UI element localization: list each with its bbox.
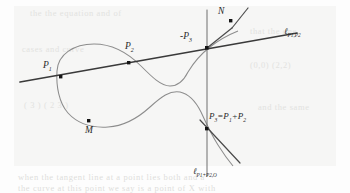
label-point-n: N <box>218 6 224 16</box>
label-point-p1: P1 <box>43 60 52 72</box>
label-p3-equals-p1-plus-p2: P3=P1+P2 <box>209 111 246 123</box>
label-vertical-line: ℓP1+P2,O <box>193 166 217 178</box>
figure-root: the the equation and of that the one cas… <box>0 0 350 193</box>
point-marker-P1 <box>59 75 62 78</box>
point-marker-minus-P3 <box>205 46 209 50</box>
label-secant-line: ℓP1,P2 <box>284 26 301 38</box>
line-P3-descending <box>200 120 240 163</box>
point-marker-M <box>87 119 90 122</box>
point-marker-P3 <box>205 127 208 130</box>
line-through-N-and-P3 <box>232 8 248 28</box>
point-marker-N <box>229 19 232 22</box>
curve-oval-lower <box>57 71 201 127</box>
point-marker-P2 <box>127 61 130 64</box>
label-point-minus-p3: -P3 <box>180 31 192 43</box>
label-point-p2: P2 <box>125 41 134 53</box>
label-point-m: M <box>85 125 93 135</box>
curve-oval-component <box>57 44 188 86</box>
